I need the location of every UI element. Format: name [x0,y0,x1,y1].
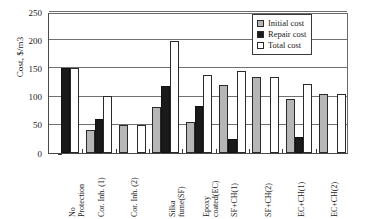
x-tick-mark [116,149,117,153]
bar [319,94,328,153]
y-tick-label: 100 [14,93,42,102]
legend-swatch-repair-cost-icon [257,31,264,38]
bar [95,119,104,153]
bar-group [216,14,249,153]
x-tick-label: SF+CH(1) [231,157,240,217]
x-tick-label: Cor. Inh. (1) [98,157,107,217]
bar [137,125,146,153]
bar [195,106,204,153]
bar [152,107,161,153]
bar [170,41,179,153]
bar [303,84,312,153]
x-tick-label: SF+CH(2) [265,157,274,217]
y-tick-label: 150 [14,65,42,74]
bar-group [49,14,82,153]
y-tick-label: 250 [14,9,42,18]
legend-item-repair-cost: Repair cost [257,29,306,40]
bar [237,71,246,153]
x-tick-mark [182,149,183,153]
x-tick-mark [316,149,317,153]
bar [186,122,195,153]
x-tick-mark [282,149,283,153]
legend-label-total-cost: Total cost [268,41,301,50]
bar-group [116,14,149,153]
x-tick-mark [249,149,250,153]
bar-group [82,14,115,153]
x-tick-label: EC+CH(1) [298,157,307,217]
bar [252,77,261,153]
bar-group [149,14,182,153]
legend-swatch-total-cost-icon [257,42,264,49]
x-tick-label: Cor. Inh. (2) [131,157,140,217]
legend-item-total-cost: Total cost [257,40,306,51]
bar [86,130,95,153]
bar [203,75,212,153]
y-tick-label: 200 [14,37,42,46]
bar [103,96,112,153]
x-tick-mark [82,149,83,153]
bar [61,68,70,153]
y-tick-label: 50 [14,121,42,130]
chart-legend: Initial cost Repair cost Total cost [252,14,312,55]
legend-swatch-initial-cost-icon [257,20,264,27]
y-tick-label: 0 [14,150,42,159]
y-axis-tick-labels: 050100150200250 [14,8,42,160]
bar [295,137,304,153]
legend-label-repair-cost: Repair cost [268,30,306,39]
bar [219,85,228,153]
gridline [49,11,347,12]
bar [161,86,170,153]
x-axis-tick-labels: No ProtectionCor. Inh. (1)Cor. Inh. (2)S… [48,156,348,219]
bar [286,99,295,153]
legend-label-initial-cost: Initial cost [268,19,304,28]
x-tick-label: Epoxy coated(EC) [203,157,220,217]
bar [119,125,128,153]
bar-group [182,14,215,153]
x-tick-mark [216,149,217,153]
y-tick-mark [58,154,62,155]
chart-figure: Cost, $/m3 050100150200250 No Protection… [0,0,366,219]
bar [70,68,79,153]
bar [228,139,237,153]
bar [337,94,346,153]
bar-group [316,14,349,153]
legend-item-initial-cost: Initial cost [257,18,306,29]
x-tick-label: No Protection [69,157,86,217]
x-tick-label: Silka fume(SF) [169,157,186,217]
bar [270,77,279,153]
x-tick-label: EC+CH(2) [331,157,340,217]
x-tick-mark [149,149,150,153]
